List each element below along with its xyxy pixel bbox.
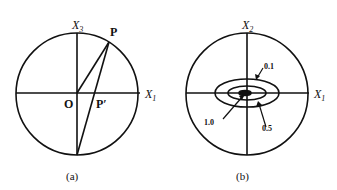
contour-label-0-5: 0.5 (262, 124, 272, 133)
contour-label-1-0: 1.0 (204, 118, 214, 127)
x1-label: X1 (144, 87, 156, 103)
figure: X3 P X1 O P′ (a) X2 X1 0.1 0.5 1.0 (b) (0, 0, 337, 190)
line-o-p (77, 42, 109, 93)
point-p-label: P (110, 25, 117, 39)
contour-1-0 (239, 91, 251, 96)
origin-label: O (64, 97, 73, 111)
panel-b (186, 33, 309, 155)
x3-label: X3 (71, 18, 83, 34)
x2-label: X2 (241, 18, 253, 34)
point-p-prime-label: P′ (96, 97, 107, 111)
leader-1-0 (223, 96, 243, 119)
contour-label-0-1: 0.1 (264, 62, 274, 71)
x1-label-b: X1 (313, 87, 325, 103)
caption-a: (a) (66, 170, 79, 183)
panel-a (16, 33, 140, 155)
caption-b: (b) (236, 170, 249, 183)
